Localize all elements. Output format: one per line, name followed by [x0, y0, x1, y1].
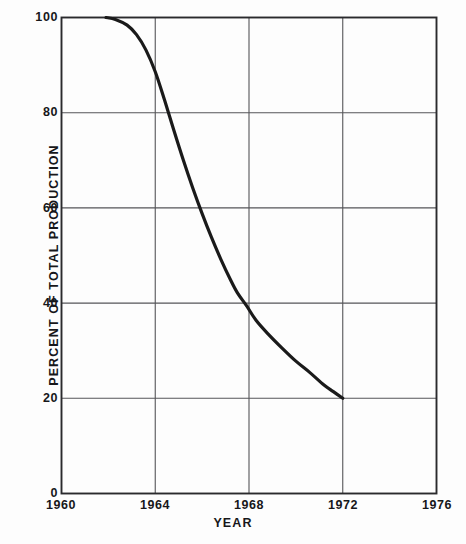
- x-tick-1972: 1972: [308, 498, 378, 512]
- x-tick-1960: 1960: [26, 498, 96, 512]
- x-tick-1968: 1968: [214, 498, 284, 512]
- x-tick-1976: 1976: [402, 498, 466, 512]
- gridlines: [62, 18, 437, 494]
- plot-canvas: [0, 0, 466, 544]
- x-axis-title: YEAR: [0, 516, 466, 530]
- chart-figure: 100 80 60 40 20 0 PERCENT OF TOTAL PRODU…: [0, 0, 466, 544]
- x-tick-1964: 1964: [120, 498, 190, 512]
